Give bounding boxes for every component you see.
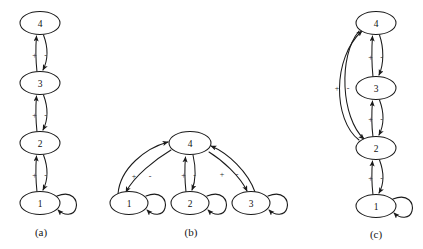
node-b-2: 2	[171, 192, 209, 215]
sign-b-1-4-positive: +	[132, 172, 137, 181]
sign-b-2-4-positive: +	[181, 171, 186, 180]
sign-c-2-4-positive: +	[335, 84, 340, 93]
node-label: 4	[188, 139, 193, 149]
sign-a-1-2-positive: +	[32, 171, 37, 180]
caption-panel-c: (c)	[355, 228, 397, 240]
node-label: 1	[127, 199, 132, 209]
node-label: 3	[38, 79, 43, 89]
edge-b-1-to-4	[118, 142, 168, 194]
node-label: 4	[38, 19, 43, 29]
node-label: 3	[374, 84, 379, 94]
caption-panel-a: (a)	[20, 226, 62, 238]
node-c-4: 4	[356, 12, 396, 35]
sign-c-2-3-positive: +	[368, 115, 373, 124]
node-a-4: 4	[20, 12, 60, 35]
sign-b-4-2-negative: -	[193, 171, 196, 180]
self-loop-b-node-1	[146, 194, 165, 214]
sign-a-3-2-negative: -	[44, 111, 47, 120]
sign-c-4-3-negative: -	[380, 53, 383, 62]
sign-a-4-3-negative: -	[44, 51, 47, 60]
self-loop-b-node-2	[207, 194, 226, 214]
node-c-2: 2	[356, 137, 396, 160]
panel-c: + - + - + - + - 4 3 2	[310, 0, 423, 249]
node-a-3: 3	[20, 72, 60, 95]
sign-a-2-1-negative: -	[44, 171, 47, 180]
sign-a-2-3-positive: +	[32, 111, 37, 120]
self-loop-b-node-3	[268, 194, 287, 214]
panel-b: + - + - + - 4 1 2 3	[100, 0, 300, 249]
node-b-1: 1	[110, 192, 148, 215]
node-a-1: 1	[20, 192, 60, 215]
node-label: 1	[374, 202, 379, 212]
caption-panel-b: (b)	[170, 226, 212, 238]
edge-b-4-to-3	[209, 152, 247, 191]
node-b-4: 4	[169, 132, 211, 155]
node-a-2: 2	[20, 132, 60, 155]
sign-c-3-4-positive: +	[368, 53, 373, 62]
sign-c-4-2-negative: -	[347, 84, 350, 93]
figure-root: + - + - + - 4 3 2 1	[0, 0, 423, 249]
sign-b-4-3-negative: -	[236, 170, 239, 179]
sign-b-4-1-negative: -	[149, 172, 152, 181]
sign-c-3-2-negative: -	[380, 115, 383, 124]
node-c-1: 1	[356, 195, 396, 218]
edge-b-3-to-4	[211, 146, 255, 192]
node-label: 2	[188, 199, 193, 209]
node-label: 3	[249, 199, 254, 209]
sign-a-3-4-positive: +	[32, 51, 37, 60]
node-b-3: 3	[232, 192, 270, 215]
node-c-3: 3	[356, 77, 396, 100]
node-label: 2	[38, 139, 43, 149]
node-label: 1	[38, 199, 43, 209]
sign-b-3-4-positive: +	[220, 170, 225, 179]
sign-c-1-2-positive: +	[368, 174, 373, 183]
sign-c-2-1-negative: -	[380, 174, 383, 183]
node-label: 2	[374, 144, 379, 154]
node-label: 4	[374, 19, 379, 29]
